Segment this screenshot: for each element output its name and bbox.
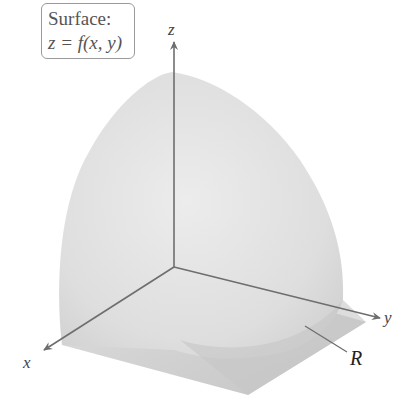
caption-equation: z = f(x, y): [48, 31, 134, 55]
surface-caption-box: Surface: z = f(x, y): [41, 3, 135, 59]
diagram-canvas: [0, 0, 415, 405]
surface-diagram: Surface: z = f(x, y) z y x R: [0, 0, 415, 405]
x-axis-label: x: [23, 353, 31, 373]
z-axis-label: z: [168, 20, 175, 40]
region-label: R: [350, 347, 362, 370]
surface-shell: [59, 72, 343, 359]
caption-line-1: Surface:: [48, 7, 134, 31]
y-axis-label: y: [384, 308, 392, 328]
